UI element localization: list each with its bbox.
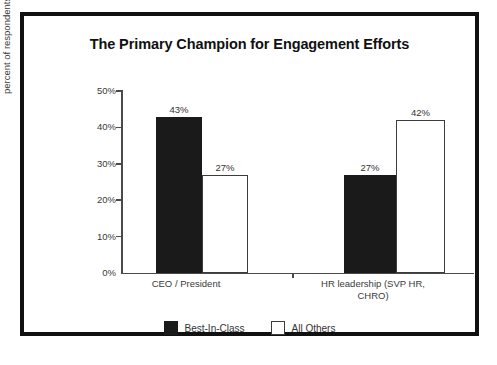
- x-axis-group-divider-tick: [292, 273, 294, 278]
- legend-label: All Others: [292, 323, 336, 334]
- bar-value-label: 42%: [411, 107, 430, 118]
- y-tick-label-50: 50%: [80, 85, 116, 96]
- y-tick-label-40: 40%: [80, 121, 116, 132]
- x-category-label-hr: HR leadership (SVP HR, CHRO): [298, 278, 448, 302]
- plot-area: 43% 27% 27% 42%: [121, 91, 474, 273]
- legend-label: Best-In-Class: [185, 323, 245, 334]
- y-tick-label-0: 0%: [80, 267, 116, 278]
- legend: Best-In-Class All Others: [24, 321, 475, 335]
- bar-best-in-class-ceo[interactable]: 43%: [156, 117, 202, 274]
- y-tick-label-30: 30%: [80, 158, 116, 169]
- x-category-line: HR leadership (SVP HR,: [298, 278, 448, 290]
- page-title: The Primary Champion for Engagement Effo…: [24, 36, 475, 52]
- bar-value-label: 27%: [215, 162, 234, 173]
- bar-value-label: 43%: [169, 104, 188, 115]
- x-category-line: CHRO): [298, 290, 448, 302]
- y-tick-label-20: 20%: [80, 194, 116, 205]
- figure-frame: The Primary Champion for Engagement Effo…: [20, 12, 479, 336]
- legend-swatch-icon: [164, 321, 178, 335]
- bar-all-others-ceo[interactable]: 27%: [202, 175, 248, 273]
- x-category-label-ceo: CEO / President: [126, 278, 246, 290]
- legend-entry-best-in-class[interactable]: Best-In-Class: [164, 321, 245, 335]
- y-tick-label-10: 10%: [80, 231, 116, 242]
- bar-best-in-class-hr[interactable]: 27%: [344, 175, 396, 273]
- legend-entry-all-others[interactable]: All Others: [271, 321, 336, 335]
- legend-swatch-icon: [271, 321, 285, 335]
- x-category-line: CEO / President: [126, 278, 246, 290]
- y-axis-title: percent of respondents, n=450: [1, 0, 12, 94]
- bar-value-label: 27%: [360, 162, 379, 173]
- bar-all-others-hr[interactable]: 42%: [396, 120, 445, 273]
